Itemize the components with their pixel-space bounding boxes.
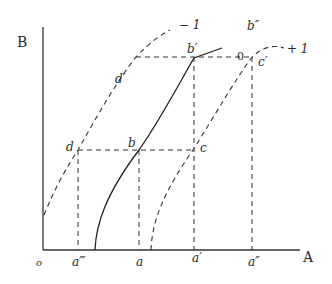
curve-0-label: 0 [237,50,244,63]
curve-minus-1-label: − 1 [179,18,201,32]
point-b: b [128,136,136,150]
tick-a: a [136,255,143,269]
tick-a-prime: a′ [192,251,202,265]
point-d-prime: d′ [115,72,126,86]
point-b-double: b″ [247,19,260,33]
curve-plus-1 [151,46,284,250]
point-d: d [66,140,74,154]
y-axis-label: B [17,34,27,50]
tick-a-double: a″ [248,255,260,269]
point-c: c [200,141,207,155]
x-axis-label: A [302,249,314,265]
origin-label: o [36,257,42,268]
tick-a-triple: a‴ [72,255,86,269]
curve-plus-1-label: + 1 [287,42,309,56]
curve-minus-1 [44,30,170,215]
point-c-prime: c′ [258,55,268,69]
point-b-prime: b′ [187,42,198,56]
indifference-diagram: B A o 0 − 1 + 1 b″ b′ b′ d′ c′ d b c a‴ … [0,0,332,284]
